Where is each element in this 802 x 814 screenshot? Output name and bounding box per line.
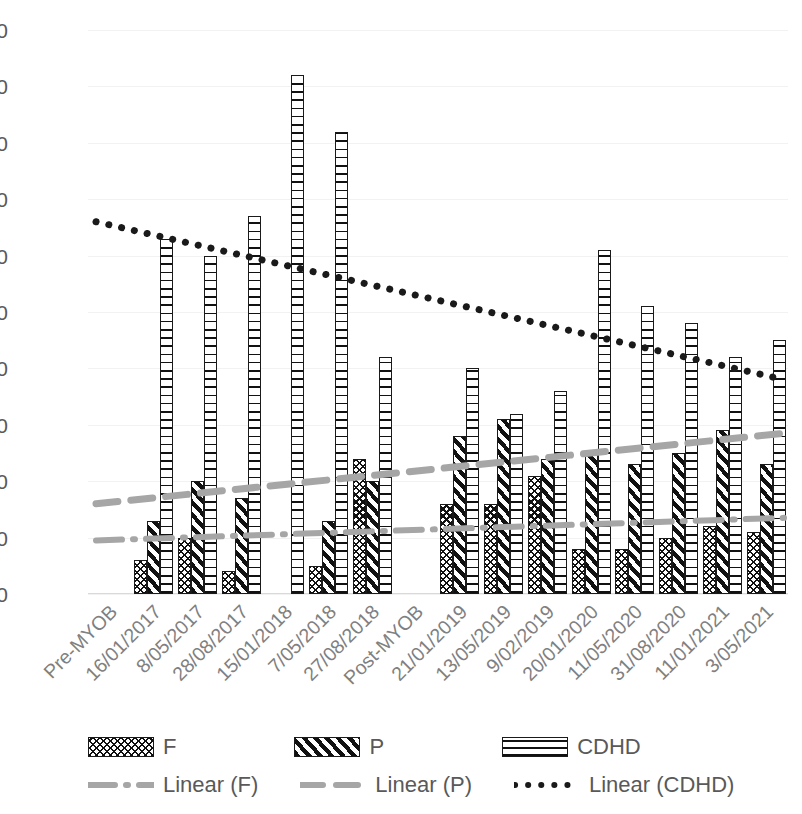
legend-label: F [163, 734, 176, 760]
legend-label: Linear (F) [163, 772, 258, 798]
legend-row-trendlines: Linear (F)Linear (P)Linear (CDHD) [0, 766, 802, 804]
y-tick-label: 10 [0, 527, 8, 548]
y-tick-label: 50 [0, 302, 8, 323]
y-tick-label: 0 [0, 584, 8, 605]
diagonal-stripe-pattern-swatch [294, 737, 360, 757]
dash-dot-line-swatch [88, 775, 154, 795]
legend-item-linearf[interactable]: Linear (F) [88, 772, 258, 798]
trendline-linearcdhd [96, 222, 784, 380]
chart-container: 1009080706050403020100 Pre-MYOB16/01/201… [0, 0, 802, 814]
dotted-line-swatch [514, 775, 580, 795]
horizontal-line-pattern-swatch [502, 737, 568, 757]
legend-row-bars: FPCDHD [0, 728, 802, 766]
chart-legend: FPCDHD Linear (F)Linear (P)Linear (CDHD) [0, 728, 802, 804]
dashed-line-swatch [300, 775, 366, 795]
y-tick-label: 90 [0, 76, 8, 97]
legend-item-linearcdhd[interactable]: Linear (CDHD) [514, 772, 734, 798]
legend-item-p[interactable]: P [294, 734, 384, 760]
crosshatch-pattern-swatch [88, 737, 154, 757]
plot-area [88, 30, 788, 594]
y-tick-label: 40 [0, 358, 8, 379]
legend-item-f[interactable]: F [88, 734, 176, 760]
y-tick-label: 20 [0, 471, 8, 492]
legend-item-linearp[interactable]: Linear (P) [300, 772, 472, 798]
y-tick-label: 80 [0, 132, 8, 153]
y-tick-label: 70 [0, 189, 8, 210]
legend-label: Linear (CDHD) [589, 772, 734, 798]
legend-item-cdhd[interactable]: CDHD [502, 734, 641, 760]
trendline-linearf [96, 518, 784, 541]
y-tick-label: 30 [0, 414, 8, 435]
y-tick-label: 100 [0, 20, 8, 41]
trendline-linearp [96, 433, 784, 504]
legend-label: P [369, 734, 384, 760]
legend-label: Linear (P) [375, 772, 472, 798]
y-tick-label: 60 [0, 245, 8, 266]
gridline [88, 594, 788, 595]
trendlines-overlay [88, 30, 788, 594]
legend-label: CDHD [577, 734, 641, 760]
